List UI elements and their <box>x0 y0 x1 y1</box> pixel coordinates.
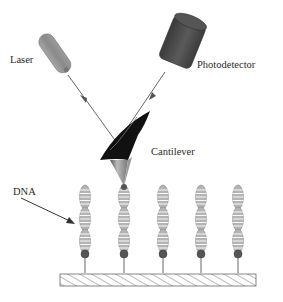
cantilever-icon <box>100 111 150 186</box>
diagram-canvas <box>0 0 283 302</box>
dna-strand <box>158 185 169 273</box>
dna-strand <box>196 185 207 273</box>
dna-strands <box>80 184 244 273</box>
dna-strand <box>80 185 91 273</box>
substrate <box>60 274 256 286</box>
laser-beam <box>68 75 117 143</box>
cantilever-label: Cantilever <box>151 146 195 157</box>
photodetector-label: Photodetector <box>197 59 255 70</box>
dna-strand <box>233 185 244 273</box>
afm-dna-diagram: Laser Photodetector Cantilever DNA <box>0 0 283 302</box>
laser-label: Laser <box>10 54 33 65</box>
dna-pointer-arrow <box>21 198 75 224</box>
dna-strand <box>119 185 130 273</box>
dna-label: DNA <box>13 186 36 197</box>
laser-icon <box>36 31 75 77</box>
